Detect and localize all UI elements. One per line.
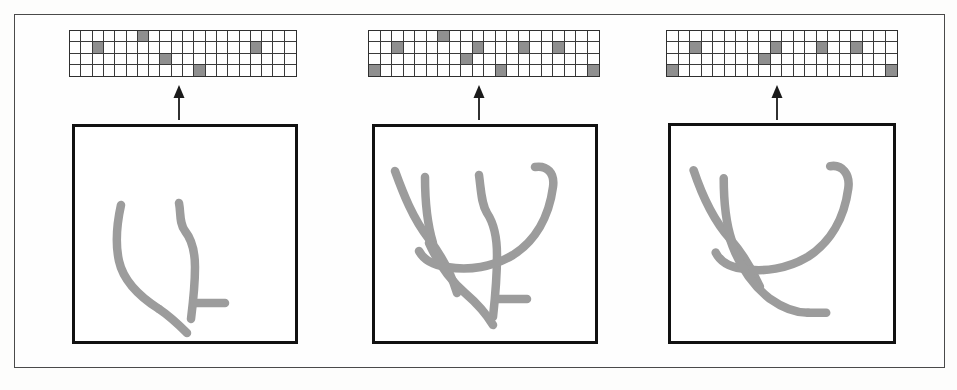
grid-cell[interactable] xyxy=(461,65,473,76)
grid-cell[interactable] xyxy=(771,31,783,42)
grid-cell[interactable] xyxy=(194,65,205,76)
grid-cell[interactable] xyxy=(172,54,183,65)
grid-cell[interactable] xyxy=(381,42,393,53)
grid-cell[interactable] xyxy=(115,65,126,76)
grid-cell[interactable] xyxy=(840,31,852,42)
grid-cell[interactable] xyxy=(851,42,863,53)
grid-cell[interactable] xyxy=(160,31,171,42)
grid-cell[interactable] xyxy=(725,42,737,53)
grid-cell[interactable] xyxy=(369,31,381,42)
grid-cell[interactable] xyxy=(217,31,228,42)
grid-cell[interactable] xyxy=(771,65,783,76)
grid-cell[interactable] xyxy=(805,54,817,65)
grid-cell[interactable] xyxy=(576,42,588,53)
grid-cell[interactable] xyxy=(690,42,702,53)
grid-cell[interactable] xyxy=(427,42,439,53)
grid-cell[interactable] xyxy=(553,54,565,65)
grid-cell[interactable] xyxy=(702,42,714,53)
grid-cell[interactable] xyxy=(782,31,794,42)
grid-cell[interactable] xyxy=(851,54,863,65)
grid-cell[interactable] xyxy=(736,65,748,76)
grid-cell[interactable] xyxy=(840,42,852,53)
grid-cell[interactable] xyxy=(542,42,554,53)
grid-cell[interactable] xyxy=(851,65,863,76)
grid-cell[interactable] xyxy=(415,54,427,65)
grid-cell[interactable] xyxy=(553,42,565,53)
grid-cell[interactable] xyxy=(817,31,829,42)
grid-cell[interactable] xyxy=(828,42,840,53)
grid-cell[interactable] xyxy=(817,54,829,65)
grid-cell[interactable] xyxy=(438,42,450,53)
grid-cell[interactable] xyxy=(690,65,702,76)
grid-cell[interactable] xyxy=(206,54,217,65)
grid-cell[interactable] xyxy=(104,31,115,42)
grid-cell[interactable] xyxy=(240,65,251,76)
grid-cell[interactable] xyxy=(542,31,554,42)
grid-cell[interactable] xyxy=(886,31,898,42)
grid-cell[interactable] xyxy=(404,54,416,65)
grid-cell[interactable] xyxy=(93,65,104,76)
grid-cell[interactable] xyxy=(115,54,126,65)
grid-cell[interactable] xyxy=(874,54,886,65)
grid-cell[interactable] xyxy=(206,42,217,53)
grid-cell[interactable] xyxy=(160,54,171,65)
grid-cell[interactable] xyxy=(138,65,149,76)
grid-cell[interactable] xyxy=(369,42,381,53)
grid-cell[interactable] xyxy=(404,42,416,53)
grid-cell[interactable] xyxy=(817,65,829,76)
grid-cell[interactable] xyxy=(805,31,817,42)
grid-cell[interactable] xyxy=(273,65,284,76)
grid-cell[interactable] xyxy=(149,42,160,53)
grid-cell[interactable] xyxy=(127,42,138,53)
grid-cell[interactable] xyxy=(519,65,531,76)
grid-cell[interactable] xyxy=(127,31,138,42)
grid-cell[interactable] xyxy=(553,31,565,42)
grid-cell[interactable] xyxy=(736,54,748,65)
grid-cell[interactable] xyxy=(736,42,748,53)
grid-cell[interactable] xyxy=(496,65,508,76)
grid-cell[interactable] xyxy=(782,65,794,76)
grid-cell[interactable] xyxy=(484,42,496,53)
grid-cell[interactable] xyxy=(240,31,251,42)
grid-cell[interactable] xyxy=(285,42,296,53)
grid-cell[interactable] xyxy=(702,65,714,76)
grid-cell[interactable] xyxy=(115,42,126,53)
grid-cell[interactable] xyxy=(817,42,829,53)
grid-cell[interactable] xyxy=(183,31,194,42)
grid-cell[interactable] xyxy=(427,65,439,76)
grid-cell[interactable] xyxy=(438,65,450,76)
grid-cell[interactable] xyxy=(70,65,81,76)
grid-cell[interactable] xyxy=(588,54,600,65)
grid-cell[interactable] xyxy=(519,31,531,42)
grid-cell[interactable] xyxy=(794,54,806,65)
grid-cell[interactable] xyxy=(81,65,92,76)
grid-cell[interactable] xyxy=(565,54,577,65)
grid-cell[interactable] xyxy=(713,31,725,42)
grid-cell[interactable] xyxy=(183,42,194,53)
grid-cell[interactable] xyxy=(450,65,462,76)
grid-cell[interactable] xyxy=(194,31,205,42)
grid-cell[interactable] xyxy=(484,65,496,76)
grid-cell[interactable] xyxy=(251,65,262,76)
grid-cell[interactable] xyxy=(713,54,725,65)
grid-cell[interactable] xyxy=(369,65,381,76)
grid-cell[interactable] xyxy=(262,65,273,76)
grid-cell[interactable] xyxy=(771,42,783,53)
grid-cell[interactable] xyxy=(415,65,427,76)
grid-cell[interactable] xyxy=(183,65,194,76)
grid-cell[interactable] xyxy=(759,31,771,42)
grid-cell[interactable] xyxy=(149,65,160,76)
grid-cell[interactable] xyxy=(217,65,228,76)
grid-cell[interactable] xyxy=(285,54,296,65)
grid-cell[interactable] xyxy=(748,65,760,76)
grid-cell[interactable] xyxy=(104,42,115,53)
grid-cell[interactable] xyxy=(519,42,531,53)
grid-cell[interactable] xyxy=(725,65,737,76)
grid-cell[interactable] xyxy=(496,54,508,65)
grid-cell[interactable] xyxy=(461,31,473,42)
grid-cell[interactable] xyxy=(81,42,92,53)
grid-cell[interactable] xyxy=(828,65,840,76)
grid-cell[interactable] xyxy=(530,54,542,65)
grid-cell[interactable] xyxy=(206,65,217,76)
grid-cell[interactable] xyxy=(874,31,886,42)
